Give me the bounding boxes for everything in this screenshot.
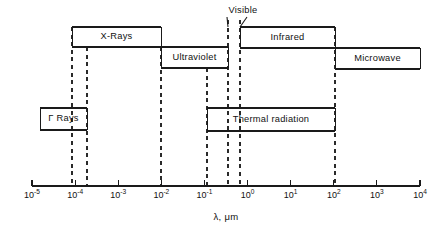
axis-tick-label--2: 10-2 <box>153 191 169 200</box>
band-brackets <box>40 27 420 131</box>
axis-title: λ, μm <box>214 212 239 222</box>
callout-label-visible: Visible <box>229 6 258 15</box>
callout-leader-lines <box>227 17 247 27</box>
axis-tick-label-3: 103 <box>370 191 384 200</box>
band-label-gamma-rays: Γ Rays <box>48 114 78 123</box>
axis-tick-label-1: 101 <box>284 191 298 200</box>
band-label-ultraviolet: Ultraviolet <box>172 53 216 62</box>
axis-tick-label--4: 10-4 <box>67 191 83 200</box>
spectrum-diagram: X-RaysUltravioletInfraredMicrowaveΓ Rays… <box>0 0 443 229</box>
axis-tick-label-2: 102 <box>327 191 341 200</box>
callout-leader-right-visible <box>240 17 247 27</box>
axis-tick-label-0: 100 <box>241 191 255 200</box>
wavelength-axis <box>32 180 420 186</box>
band-label-x-rays: X-Rays <box>101 32 133 41</box>
axis-tick-label--3: 10-3 <box>110 191 126 200</box>
band-label-infrared: Infrared <box>270 33 304 42</box>
band-label-thermal-radiation: Thermal radiation <box>233 115 310 124</box>
callout-visible <box>227 17 247 27</box>
callout-leader-left-visible <box>227 17 228 27</box>
band-label-microwave: Microwave <box>354 54 401 63</box>
axis-tick-label-4: 104 <box>413 191 427 200</box>
boundary-dashed-lines <box>72 20 335 186</box>
axis-tick-label--1: 10-1 <box>196 191 212 200</box>
axis-tick-label--5: 10-5 <box>24 191 40 200</box>
